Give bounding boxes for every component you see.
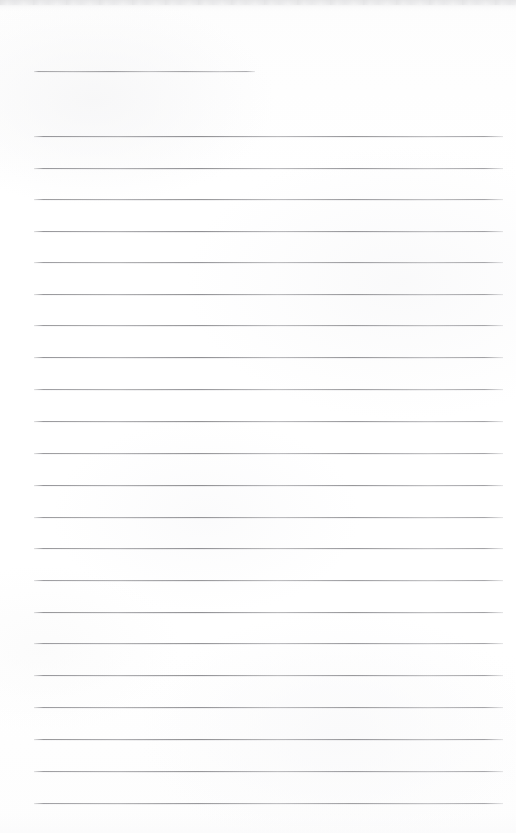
ruled-line (34, 199, 503, 200)
ruled-line (34, 739, 503, 740)
ruled-line (34, 231, 503, 232)
ruled-line (34, 580, 503, 581)
ruled-line (34, 168, 503, 169)
ruled-line (34, 136, 503, 137)
ruled-line (34, 517, 503, 518)
ruled-line (34, 548, 503, 549)
ruled-line (34, 71, 255, 72)
ruled-line (34, 612, 503, 613)
ruled-line (34, 389, 503, 390)
ruled-line (34, 325, 503, 326)
ruled-line (34, 357, 503, 358)
ruled-line (34, 675, 503, 676)
ruled-line (34, 707, 503, 708)
ruled-line (34, 421, 503, 422)
ruled-line (34, 485, 503, 486)
ruled-line (34, 643, 503, 644)
ruled-line (34, 453, 503, 454)
ruled-line (34, 294, 503, 295)
scanned-page (0, 0, 516, 833)
paper-surface-texture (0, 0, 516, 833)
ruled-line (34, 771, 503, 772)
scan-bottom-edge-band (0, 813, 516, 833)
scan-top-edge-band (0, 0, 516, 11)
ruled-line (34, 262, 503, 263)
ruled-line (34, 803, 503, 804)
